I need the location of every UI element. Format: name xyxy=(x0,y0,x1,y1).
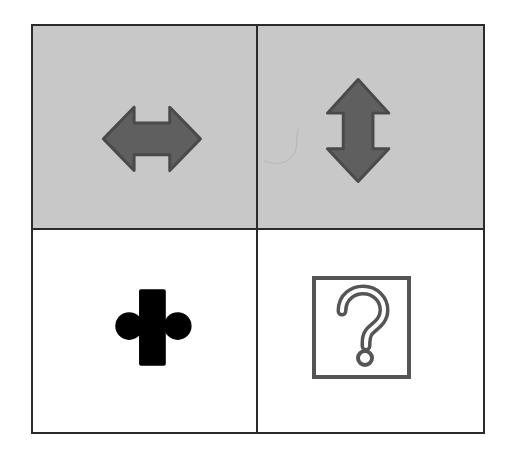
cell-top-right xyxy=(258,26,483,230)
horizontal-double-arrow-icon xyxy=(33,26,256,228)
bar-with-circles-icon xyxy=(33,230,256,432)
cell-bottom-left xyxy=(33,230,258,432)
cell-top-left xyxy=(33,26,258,230)
question-mark-box-icon xyxy=(258,230,483,432)
vertical-double-arrow-icon xyxy=(258,26,483,228)
puzzle-grid xyxy=(31,24,485,434)
cell-bottom-right xyxy=(258,230,483,432)
